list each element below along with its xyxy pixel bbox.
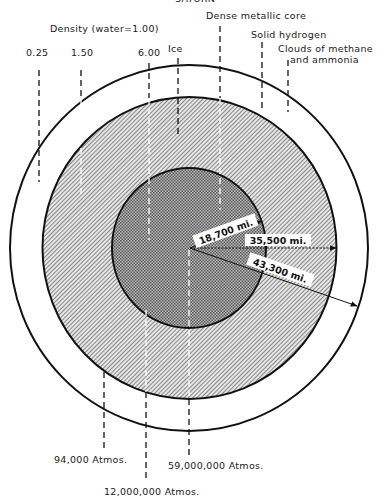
planet-interior-diagram: SATURN 18,700 mi. 35, — [0, 0, 386, 501]
pressure-label-94000: 94,000 Atmos. — [54, 454, 127, 465]
label-density-600: 6.00 — [138, 47, 160, 58]
label-dense-core: Dense metallic core — [206, 10, 306, 21]
title-partial: SATURN — [175, 0, 215, 4]
label-clouds-line2: and ammonia — [290, 54, 359, 65]
label-solid-hydrogen: Solid hydrogen — [251, 29, 326, 40]
pressure-label-12m: 12,000,000 Atmos. — [104, 486, 200, 497]
label-density-150: 1.50 — [71, 47, 93, 58]
density-header: Density (water=1.00) — [50, 23, 159, 34]
pressure-label-59m: 59,000,000 Atmos. — [168, 460, 264, 471]
label-clouds-line1: Clouds of methane — [278, 43, 373, 54]
radius-label-mantle: 35,500 mi. — [245, 234, 311, 246]
svg-text:35,500 mi.: 35,500 mi. — [250, 235, 307, 246]
label-ice: Ice — [168, 43, 183, 54]
label-density-025: 0.25 — [26, 47, 48, 58]
